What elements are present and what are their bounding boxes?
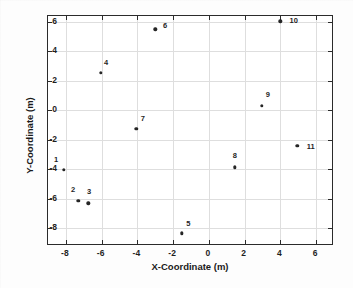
data-point-label: 11 <box>307 141 315 150</box>
plot-area: 1234567891011 <box>47 15 333 245</box>
x-tick-mark <box>173 240 174 244</box>
gridline-horizontal <box>48 199 332 200</box>
data-point <box>77 199 80 202</box>
y-tick-label: 4 <box>52 45 57 55</box>
gridline-vertical <box>280 16 281 244</box>
gridline-horizontal <box>48 51 332 52</box>
x-tick-mark <box>245 240 246 244</box>
data-point <box>296 144 299 147</box>
y-tick-label: 2 <box>52 75 57 85</box>
y-tick-label: -8 <box>49 222 57 232</box>
gridline-horizontal <box>48 169 332 170</box>
y-tick-label: 6 <box>52 16 57 26</box>
x-tick-mark <box>66 240 67 244</box>
gridline-vertical <box>66 16 67 244</box>
gridline-vertical <box>209 16 210 244</box>
y-tick-label: -4 <box>49 163 57 173</box>
y-tick-mark <box>328 51 332 52</box>
data-point-label: 7 <box>141 113 145 122</box>
x-tick-mark <box>66 16 67 20</box>
gridline-vertical <box>173 16 174 244</box>
data-point-label: 5 <box>186 219 190 228</box>
x-tick-label: -6 <box>97 248 105 258</box>
x-tick-mark <box>102 16 103 20</box>
y-tick-mark <box>328 110 332 111</box>
x-tick-mark <box>316 16 317 20</box>
gridline-horizontal <box>48 228 332 229</box>
gridline-horizontal <box>48 81 332 82</box>
data-point-label: 2 <box>71 185 75 194</box>
data-point-label: 3 <box>87 186 91 195</box>
data-point-label: 1 <box>54 155 58 164</box>
data-point-label: 4 <box>104 57 108 66</box>
y-tick-mark <box>328 81 332 82</box>
x-tick-mark <box>173 16 174 20</box>
data-point-label: 10 <box>290 16 298 25</box>
gridline-horizontal <box>48 110 332 111</box>
y-tick-mark <box>328 169 332 170</box>
x-tick-mark <box>137 240 138 244</box>
y-axis-title: Y-Coordinate (m) <box>24 61 35 211</box>
data-point <box>260 104 263 107</box>
x-tick-label: 6 <box>313 248 318 258</box>
x-axis-title: X-Coordinate (m) <box>47 261 333 272</box>
gridline-vertical <box>137 16 138 244</box>
x-tick-label: 4 <box>277 248 282 258</box>
x-tick-mark <box>245 16 246 20</box>
x-tick-mark <box>137 16 138 20</box>
x-tick-mark <box>209 16 210 20</box>
x-tick-label: -8 <box>61 248 69 258</box>
data-point <box>154 28 157 31</box>
gridline-horizontal <box>48 140 332 141</box>
x-tick-label: 2 <box>241 248 246 258</box>
x-tick-label: -2 <box>168 248 176 258</box>
x-tick-mark <box>209 240 210 244</box>
y-tick-mark <box>328 22 332 23</box>
x-tick-mark <box>280 240 281 244</box>
y-tick-mark <box>328 199 332 200</box>
data-point-label: 8 <box>233 150 237 159</box>
data-point-label: 6 <box>163 20 167 29</box>
gridline-vertical <box>316 16 317 244</box>
y-tick-mark <box>328 140 332 141</box>
x-tick-mark <box>316 240 317 244</box>
x-tick-label: -4 <box>133 248 141 258</box>
data-point-label: 9 <box>266 90 270 99</box>
data-point <box>87 202 90 205</box>
x-tick-mark <box>102 240 103 244</box>
y-tick-label: -6 <box>49 193 57 203</box>
y-tick-label: -2 <box>49 134 57 144</box>
y-tick-mark <box>328 228 332 229</box>
gridline-vertical <box>102 16 103 244</box>
gridline-vertical <box>245 16 246 244</box>
y-tick-label: 0 <box>52 104 57 114</box>
data-point <box>233 165 236 168</box>
x-tick-label: 0 <box>206 248 211 258</box>
scatter-plot-figure: Y-Coordinate (m) 1234567891011 X-Coordin… <box>0 0 353 288</box>
data-point <box>180 232 183 235</box>
